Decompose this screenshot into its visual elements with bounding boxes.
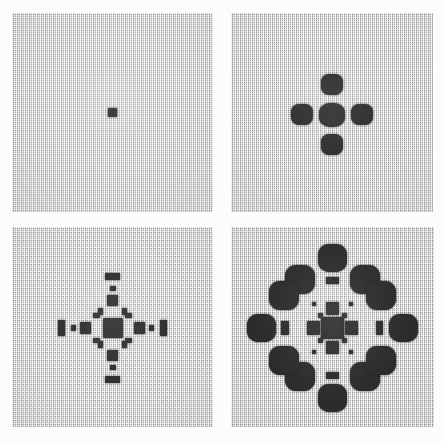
automaton-cell bbox=[269, 281, 298, 310]
automaton-cell bbox=[349, 302, 353, 306]
automaton-cell bbox=[312, 350, 316, 354]
automaton-cell bbox=[312, 302, 316, 306]
automaton-cell bbox=[318, 338, 323, 343]
automaton-cell bbox=[321, 317, 343, 339]
automaton-cell bbox=[122, 308, 127, 315]
automaton-cell bbox=[107, 350, 118, 361]
automaton-cell-layer bbox=[231, 13, 433, 212]
automaton-cell bbox=[247, 314, 276, 342]
automaton-cell bbox=[281, 321, 288, 334]
automaton-cell bbox=[134, 322, 145, 333]
mesh-grid-background bbox=[12, 13, 213, 212]
automaton-cell bbox=[285, 362, 315, 391]
automaton-cell bbox=[103, 318, 123, 337]
automaton-cell bbox=[105, 376, 120, 383]
mesh-grid-background bbox=[231, 227, 434, 427]
automaton-cell bbox=[345, 321, 358, 334]
panel-vignette bbox=[231, 13, 433, 212]
panel-2 bbox=[231, 13, 433, 212]
figure-root bbox=[0, 0, 445, 443]
automaton-cell bbox=[318, 313, 323, 318]
panel-4 bbox=[231, 227, 434, 427]
automaton-cell bbox=[326, 277, 339, 284]
automaton-cell bbox=[122, 341, 127, 348]
automaton-cell bbox=[285, 265, 315, 294]
automaton-cell bbox=[366, 281, 395, 310]
automaton-cell bbox=[318, 244, 347, 272]
automaton-cell bbox=[349, 350, 353, 354]
automaton-cell bbox=[105, 273, 120, 280]
automaton-cell bbox=[342, 338, 347, 343]
automaton-cell bbox=[342, 313, 347, 318]
mesh-grid-background bbox=[231, 13, 433, 212]
automaton-cell bbox=[350, 265, 380, 294]
automaton-cell-layer bbox=[12, 227, 213, 427]
automaton-cell bbox=[107, 295, 118, 306]
automaton-cell bbox=[318, 384, 347, 412]
automaton-cell bbox=[307, 321, 320, 334]
automaton-cell bbox=[319, 103, 345, 127]
automaton-cell bbox=[108, 108, 117, 117]
panel-vignette bbox=[231, 227, 434, 427]
panel-vignette bbox=[12, 13, 213, 212]
automaton-cell bbox=[366, 346, 395, 375]
automaton-cell bbox=[160, 320, 167, 335]
automaton-cell bbox=[110, 286, 116, 291]
automaton-cell-layer bbox=[231, 227, 434, 427]
panel-1 bbox=[12, 13, 213, 212]
automaton-cell bbox=[389, 314, 418, 342]
automaton-cell-layer bbox=[12, 13, 213, 212]
automaton-cell bbox=[321, 74, 343, 95]
automaton-cell bbox=[98, 341, 103, 348]
automaton-cell bbox=[351, 104, 373, 125]
automaton-cell bbox=[80, 322, 91, 333]
automaton-cell bbox=[58, 320, 65, 335]
automaton-cell bbox=[269, 346, 298, 375]
panel-vignette bbox=[12, 227, 213, 427]
automaton-cell bbox=[350, 362, 380, 391]
automaton-cell bbox=[93, 338, 100, 343]
automaton-cell bbox=[321, 134, 343, 155]
panel-3 bbox=[12, 227, 213, 427]
automaton-cell bbox=[291, 104, 313, 125]
automaton-cell bbox=[93, 313, 100, 318]
automaton-cell bbox=[326, 372, 339, 379]
automaton-cell bbox=[149, 325, 154, 331]
automaton-cell bbox=[125, 338, 132, 343]
automaton-cell bbox=[376, 321, 383, 334]
automaton-cell bbox=[98, 308, 103, 315]
automaton-cell bbox=[125, 313, 132, 318]
automaton-cell bbox=[110, 365, 116, 370]
automaton-cell bbox=[71, 325, 76, 331]
mesh-grid-background bbox=[12, 227, 213, 427]
automaton-cell bbox=[326, 302, 339, 315]
automaton-cell bbox=[326, 341, 339, 354]
